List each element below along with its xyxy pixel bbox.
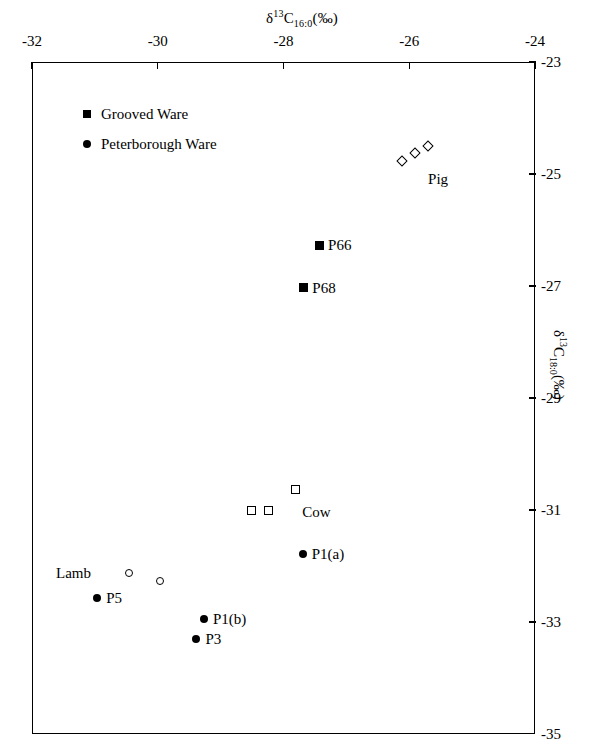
data-point-open-circle (156, 577, 164, 585)
y-tick-label: -33 (541, 615, 561, 630)
data-point-filled-square (299, 283, 308, 292)
legend-label: Peterborough Ware (101, 136, 217, 153)
point-label: Lamb (56, 566, 91, 581)
x-axis-title-subscript: 16:0 (294, 18, 313, 29)
data-point-open-diamond (422, 140, 433, 151)
point-label: P3 (205, 632, 221, 647)
y-axis-title-element: C (551, 347, 567, 357)
legend-label: Grooved Ware (101, 106, 188, 123)
y-tick-label: -25 (541, 167, 561, 182)
x-tick-label: -32 (9, 33, 55, 50)
data-point-open-square (291, 485, 300, 494)
data-point-filled-circle (192, 635, 200, 643)
x-tick-label: -26 (386, 33, 432, 50)
point-label: P1(a) (312, 547, 345, 562)
y-tick-label: -23 (541, 55, 561, 70)
x-axis-title: δ13C16:0(‰) (0, 8, 604, 29)
data-point-filled-circle (299, 550, 307, 558)
legend-item-2: Peterborough Ware (83, 129, 217, 159)
data-point-open-diamond (409, 147, 420, 158)
x-axis-title-unit: (‰) (312, 10, 338, 26)
y-tick-label: -29 (541, 391, 561, 406)
x-tick-label: -28 (261, 33, 307, 50)
chart-legend: Grooved WarePeterborough Ware (83, 99, 217, 159)
filled-circle-icon (83, 140, 101, 148)
y-tick-label: -31 (541, 503, 561, 518)
data-point-filled-circle (93, 594, 101, 602)
y-axis-title-subscript: 18:0 (548, 357, 559, 375)
legend-item-1: Grooved Ware (83, 99, 217, 129)
x-tick-label: -24 (512, 33, 558, 50)
data-point-open-square (247, 506, 256, 515)
filled-square-icon (83, 110, 101, 118)
data-point-filled-square (315, 241, 324, 250)
point-label: P68 (312, 281, 335, 296)
point-label: P1(b) (213, 612, 246, 627)
point-label: Cow (302, 505, 330, 520)
x-axis-title-superscript: 13 (273, 8, 283, 19)
point-label: P66 (328, 238, 351, 253)
y-tick-label: -35 (541, 727, 561, 742)
y-axis-title-superscript: 13 (558, 337, 569, 347)
data-point-open-diamond (396, 155, 407, 166)
scatter-plot-figure: δ13C16:0(‰) δ13C18:0(‰) -32-30-28-26-24 … (0, 0, 604, 753)
point-label: P5 (106, 591, 122, 606)
y-tick-label: -27 (541, 279, 561, 294)
data-point-open-circle (125, 569, 133, 577)
data-point-open-square (264, 506, 273, 515)
point-label: Pig (428, 172, 448, 187)
data-point-filled-circle (200, 615, 208, 623)
x-tick-label: -30 (135, 33, 181, 50)
plot-area: PigCowLambP66P68P1(a)P5P1(b)P3 (32, 62, 535, 734)
x-axis-title-element: C (284, 10, 294, 26)
